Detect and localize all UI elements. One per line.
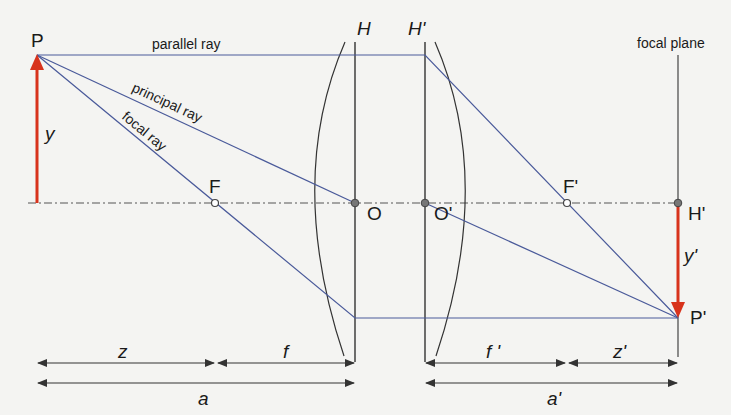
lens-front-surface xyxy=(315,42,345,356)
label-focal-ray: focal ray xyxy=(119,108,170,154)
label-y: y xyxy=(43,123,56,144)
label-dim-f-prime: f ' xyxy=(486,341,502,362)
nodal-point-o xyxy=(351,199,359,207)
object-arrow-head xyxy=(30,54,44,70)
image-principal-point xyxy=(674,199,682,207)
label-h-image: H' xyxy=(688,203,705,224)
label-o-prime: O' xyxy=(434,203,452,224)
principal-ray-out xyxy=(425,203,678,318)
label-p: P xyxy=(31,30,44,51)
label-dim-z-prime: z' xyxy=(612,341,628,362)
focus-point-f-prime xyxy=(564,200,571,207)
label-dim-a-prime: a' xyxy=(547,388,563,409)
label-o: O xyxy=(367,203,382,224)
label-y-prime: y' xyxy=(682,245,699,266)
focus-point-f xyxy=(212,200,219,207)
label-dim-z: z xyxy=(117,341,128,362)
principal-ray-in xyxy=(37,55,355,203)
label-h: H xyxy=(357,18,371,39)
label-focal-plane: focal plane xyxy=(637,35,705,51)
label-f: F xyxy=(209,176,221,197)
nodal-point-o-prime xyxy=(421,199,429,207)
label-dim-f: f xyxy=(283,341,290,362)
lens-back-surface xyxy=(435,42,465,356)
label-parallel-ray: parallel ray xyxy=(152,36,220,52)
label-f-prime: F' xyxy=(563,176,578,197)
label-h-prime: H' xyxy=(408,18,427,39)
thick-lens-diagram: P y F O O' F' H' y' P' H H' focal plane … xyxy=(0,0,731,415)
label-dim-a: a xyxy=(198,388,209,409)
label-p-prime: P' xyxy=(690,307,706,328)
